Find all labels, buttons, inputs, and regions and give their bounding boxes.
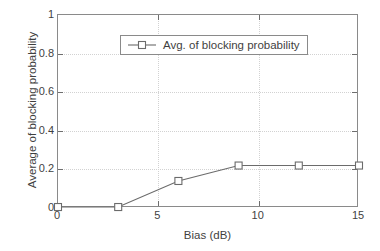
data-point-marker xyxy=(235,162,242,169)
y-tick-label-06: 0.6 xyxy=(39,86,54,97)
data-point-marker xyxy=(175,177,182,184)
series-line-avg-blocking-probability xyxy=(58,166,359,207)
y-tick-label-04: 0.4 xyxy=(39,125,54,136)
x-tick-label-15: 15 xyxy=(352,210,364,221)
legend-label: Avg. of blocking probability xyxy=(163,39,300,51)
x-tick-label-5: 5 xyxy=(154,210,160,221)
data-point-marker xyxy=(115,204,122,211)
series-markers-avg-blocking-probability xyxy=(55,162,363,210)
y-tick-label-08: 0.8 xyxy=(39,48,54,59)
chart-figure: 1 0.8 0.6 0.4 0.2 0 0 5 10 15 Bias (dB) … xyxy=(0,0,380,251)
data-point-marker xyxy=(295,162,302,169)
chart-legend: Avg. of blocking probability xyxy=(120,35,308,55)
x-axis-title: Bias (dB) xyxy=(57,229,358,241)
data-point-marker xyxy=(55,204,62,211)
plot-area: Avg. of blocking probability xyxy=(57,14,358,207)
x-tick-label-0: 0 xyxy=(54,210,60,221)
x-tick-label-10: 10 xyxy=(252,210,264,221)
y-tick-label-02: 0.2 xyxy=(39,163,54,174)
data-point-marker xyxy=(356,162,363,169)
y-tick-label-1: 1 xyxy=(48,9,54,20)
legend-line-marker-icon xyxy=(128,39,156,51)
y-axis-title: Average of blocking probability xyxy=(26,15,38,205)
